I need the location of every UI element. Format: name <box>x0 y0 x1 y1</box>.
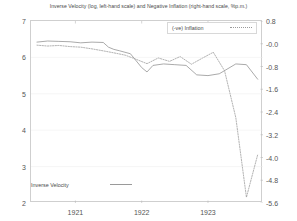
chart-title: Inverse Velocity (log, left-hand scale) … <box>0 3 297 9</box>
chart-canvas <box>31 21 263 203</box>
y-axis-left-tick-6: 6 <box>22 54 31 61</box>
legend-inverse-velocity: Inverse Velocity <box>31 179 136 190</box>
gridlines <box>31 57 263 166</box>
plot-area: 765432 0.8-0.0-0.8-1.6-2.4-3.2-4.0-4.8-5… <box>30 20 262 202</box>
x-axis-tick-1921: 1921 <box>68 201 84 216</box>
x-axis-tick-1923: 1923 <box>200 201 216 216</box>
y-axis-left-tick-7: 7 <box>22 18 31 25</box>
y-axis-right-tick--4-8: -4.8 <box>261 177 278 184</box>
y-axis-right-tick-0-8: 0.8 <box>261 18 276 25</box>
x-axis-tick-1922: 1922 <box>134 201 150 216</box>
y-axis-right-tick--3-2: -3.2 <box>261 131 278 138</box>
y-axis-left-tick-4: 4 <box>22 127 31 134</box>
legend-label-negative-inflation: (-ve) Inflation <box>172 25 203 31</box>
legend-negative-inflation: (-ve) Inflation <box>167 22 257 34</box>
y-axis-right-tick--0-8: -0.8 <box>261 63 278 70</box>
legend-swatch-solid-line <box>110 184 132 185</box>
y-axis-right-tick--2-4: -2.4 <box>261 109 278 116</box>
y-axis-right-tick--0-0: -0.0 <box>261 40 278 47</box>
y-axis-right-tick--1-6: -1.6 <box>261 86 278 93</box>
series-line-negative-inflation <box>37 45 258 197</box>
legend-swatch-dotted-line <box>230 27 252 29</box>
series-line-inverse-velocity <box>37 41 258 79</box>
axis-ticks <box>75 21 263 203</box>
y-axis-right-tick--5-6: -5.6 <box>261 200 278 207</box>
legend-label-inverse-velocity: Inverse Velocity <box>31 182 69 188</box>
y-axis-left-tick-3: 3 <box>22 163 31 170</box>
y-axis-left-tick-2: 2 <box>22 200 31 207</box>
chart-figure: Inverse Velocity (log, left-hand scale) … <box>0 0 297 221</box>
y-axis-right-tick--4-0: -4.0 <box>261 154 278 161</box>
y-axis-left-tick-5: 5 <box>22 90 31 97</box>
